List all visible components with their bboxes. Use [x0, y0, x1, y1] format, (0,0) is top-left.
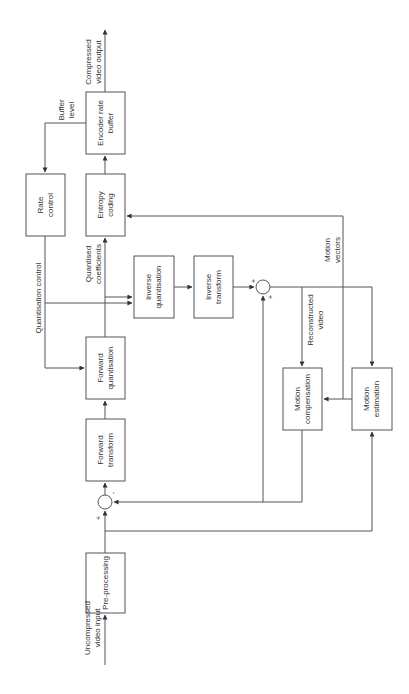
label-input-1: Uncompressed: [83, 601, 92, 655]
label-forward-transform-2: transform: [106, 433, 115, 467]
video-encoder-block-diagram: + - + + Pre-processing Forward transform…: [0, 0, 409, 694]
subtractor-minus-sign: -: [109, 491, 116, 494]
label-buffer-level-1: Buffer: [57, 99, 66, 121]
label-rate-control-1: Rate: [36, 196, 45, 213]
label-output-1: Compressed: [84, 39, 93, 84]
subtractor-junction: [98, 495, 112, 509]
adder-plus-sign-a: +: [250, 279, 257, 283]
label-motion-vectors-2: vectors: [333, 237, 342, 263]
label-forward-quantisation-1: Forward: [96, 353, 105, 382]
label-motion-estimation-2: estimation: [372, 381, 381, 417]
preproc-to-motion-estimation: [105, 432, 372, 531]
block-encoder-rate-buffer: Encoder rate buffer: [86, 92, 125, 154]
label-reconstructed-video-2: video: [316, 310, 325, 330]
label-rate-control-2: control: [46, 193, 55, 217]
label-motion-vectors-1: Motion: [323, 238, 332, 262]
label-inverse-transform-1: Inverse: [204, 273, 213, 300]
label-motion-estimation-1: Motion: [362, 387, 371, 411]
block-inverse-transform: Inverse transform: [194, 256, 233, 318]
label-quantisation-control: Quantisation control: [34, 262, 43, 333]
adder-junction: [256, 280, 270, 294]
label-pre-processing: Pre-processing: [101, 556, 110, 610]
label-reconstructed-video-1: Reconstructed: [306, 294, 315, 346]
label-forward-quantisation-2: quantisation: [106, 346, 115, 389]
label-entropy-coding-2: coding: [106, 193, 115, 217]
label-input-2: video input: [93, 608, 102, 647]
label-entropy-coding-1: Entropy: [96, 191, 105, 219]
label-forward-transform-1: Forward: [96, 435, 105, 464]
label-motion-compensation-1: Motion: [293, 387, 302, 411]
buffer-level-to-rate-control: [45, 123, 86, 172]
label-output-2: video output: [94, 39, 103, 83]
quant-control-to-fwd-quant: [45, 236, 84, 368]
block-forward-transform: Forward transform: [86, 419, 125, 481]
block-forward-quantisation: Forward quantisation: [86, 337, 125, 399]
block-motion-compensation: Motion compensation: [283, 368, 322, 430]
label-inverse-transform-2: transform: [214, 270, 223, 304]
label-encoder-rate-buffer-1: Encoder rate: [96, 100, 105, 146]
adder-plus-sign-b: +: [267, 295, 274, 299]
motion-comp-to-subtractor: [114, 430, 302, 502]
block-entropy-coding: Entropy coding: [86, 174, 125, 236]
label-encoder-rate-buffer-2: buffer: [106, 113, 115, 134]
block-rate-control: Rate control: [26, 174, 65, 236]
label-inverse-quantisation-2: quantisation: [154, 265, 163, 308]
label-motion-compensation-2: compensation: [303, 374, 312, 424]
subtractor-plus-sign: +: [95, 516, 102, 520]
label-inverse-quantisation-1: Inverse: [144, 273, 153, 300]
block-inverse-quantisation: Inverse quantisation: [134, 256, 174, 318]
label-quantised-coefficients-2: coefficients: [94, 244, 103, 284]
label-buffer-level-2: level: [67, 102, 76, 119]
block-motion-estimation: Motion estimation: [352, 368, 392, 430]
label-quantised-coefficients-1: Quantised: [84, 246, 93, 282]
